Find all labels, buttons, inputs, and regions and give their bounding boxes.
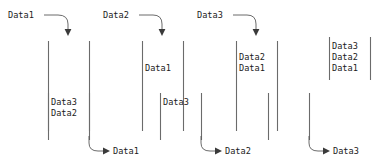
- stack-operations-diagram: Data1 Data2 Data1 Data3 Data2 Data1 Data…: [0, 0, 384, 164]
- stack-item: Data3: [51, 97, 77, 107]
- stack-item: Data2: [332, 52, 358, 62]
- pop-arrowhead-3: [323, 148, 330, 155]
- stack-item: Data2: [51, 108, 77, 118]
- push-label-3: Data3: [197, 10, 223, 20]
- pop-arrow-1: [89, 136, 104, 151]
- stack-item: Data2: [239, 52, 265, 62]
- push-label-2: Data2: [103, 10, 129, 20]
- push-arrowhead-3: [253, 29, 260, 36]
- stack-item: Data1: [332, 63, 358, 73]
- pop-label-3: Data3: [333, 146, 359, 156]
- push-arrow-1: [44, 15, 68, 30]
- stack-item: Data1: [145, 63, 171, 73]
- stack-item: Data1: [239, 63, 265, 73]
- push-arrow-2: [139, 15, 162, 30]
- pop-arrow-3: [309, 136, 324, 151]
- push-arrow-3: [233, 15, 256, 30]
- pop-arrowhead-2: [215, 148, 222, 155]
- pop-arrowhead-1: [103, 148, 110, 155]
- stack-item: Data3: [163, 97, 189, 107]
- pop-arrow-2: [201, 136, 216, 151]
- stack-item: Data3: [332, 41, 358, 51]
- pop-label-1: Data1: [113, 146, 139, 156]
- push-arrowhead-2: [159, 29, 166, 36]
- push-label-1: Data1: [8, 10, 34, 20]
- pop-label-2: Data2: [225, 146, 251, 156]
- push-arrowhead-1: [65, 29, 72, 36]
